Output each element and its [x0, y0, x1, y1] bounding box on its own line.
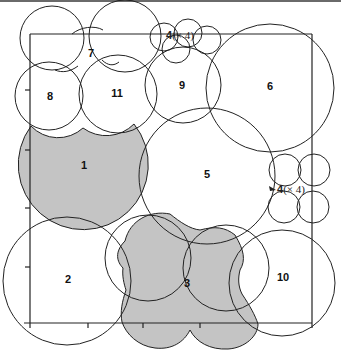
label-region-5: 5: [204, 168, 210, 180]
label-region-2: 2: [65, 273, 71, 285]
label-region-7: 7: [88, 47, 94, 59]
label-region-9: 9: [179, 79, 185, 91]
label-region-4-right-multiplier: (× 4): [283, 183, 305, 196]
label-region-8: 8: [47, 90, 53, 102]
label-region-4-right: 4(× 4): [277, 183, 305, 196]
region-1-shape: [18, 124, 148, 230]
pointer-arrow-icon: [269, 186, 276, 191]
label-region-10: 10: [277, 271, 289, 283]
circle-covering-diagram: 1 2 3 5 6 7 8 9 10 11 4(× 4) 4(× 4): [0, 0, 341, 356]
label-region-4-top: 4(× 4): [166, 29, 194, 42]
label-region-1: 1: [81, 159, 87, 171]
label-region-11: 11: [111, 87, 123, 99]
label-region-4-top-multiplier: (× 4): [172, 29, 194, 42]
label-region-3: 3: [184, 277, 190, 289]
label-region-6: 6: [267, 80, 273, 92]
